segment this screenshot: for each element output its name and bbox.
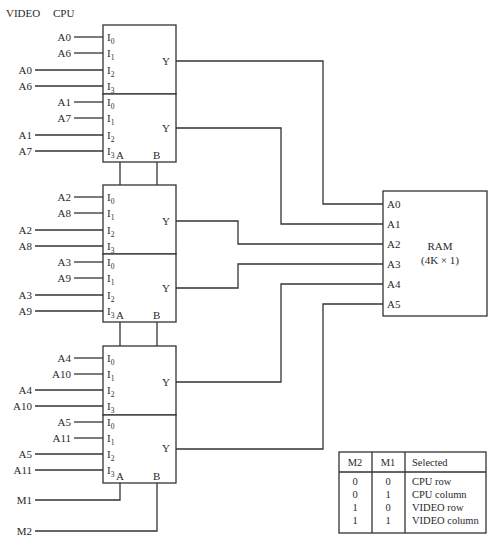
ram-pin-a1: A1 — [387, 218, 400, 230]
input-label: A11 — [52, 432, 71, 444]
input-label: A6 — [58, 47, 72, 59]
ram-pin-a0: A0 — [387, 198, 401, 210]
m2-wire — [35, 483, 157, 531]
cell: VIDEO row — [412, 502, 464, 513]
ram-pin-a2: A2 — [387, 238, 400, 250]
input-label: A9 — [58, 272, 72, 284]
cell: CPU column — [412, 489, 467, 500]
mux-group-1: A0 A6 A0 A6 A1 A7 A1 A7 I0 I1 I2 I3 I0 I… — [19, 25, 176, 162]
ram-size: (4K × 1) — [421, 254, 459, 267]
input-label: A7 — [19, 145, 33, 157]
m1-label: M1 — [17, 494, 32, 506]
pin-y: Y — [162, 122, 170, 134]
input-label: A10 — [52, 368, 71, 380]
th-selected: Selected — [412, 457, 448, 468]
pin-a: A — [116, 309, 124, 321]
input-label: A6 — [19, 80, 33, 92]
cell: 1 — [352, 502, 357, 513]
pin-y: Y — [162, 282, 170, 294]
input-label: A2 — [19, 224, 32, 236]
input-label: A0 — [58, 31, 72, 43]
input-label: A1 — [19, 129, 32, 141]
input-label: A10 — [13, 400, 32, 412]
input-label: A9 — [19, 305, 33, 317]
input-label: A8 — [19, 240, 33, 252]
pin-b: B — [153, 149, 160, 161]
pin-y: Y — [162, 55, 170, 67]
pin-y: Y — [162, 376, 170, 388]
pin-b: B — [153, 470, 160, 482]
input-label: A0 — [19, 64, 33, 76]
cell: 1 — [352, 515, 357, 526]
wire-y2-a1 — [176, 128, 383, 224]
input-label: A5 — [19, 448, 33, 460]
th-m2: M2 — [348, 457, 363, 468]
video-column-label: VIDEO — [6, 7, 40, 19]
cpu-column-label: CPU — [53, 7, 74, 19]
input-label: A7 — [58, 112, 72, 124]
wire-y5-a4 — [176, 284, 383, 382]
cell: 0 — [352, 476, 357, 487]
cell: VIDEO column — [412, 515, 480, 526]
mux-group-2: A2 A8 A2 A8 A3 A9 A3 A9 I0 I1 I2 I3 I0 I… — [19, 185, 176, 322]
wire-y6-a5 — [176, 304, 383, 449]
mux-group-3: A4 A10 A4 A10 A5 A11 A5 A11 I0 I1 I2 I3 … — [13, 346, 176, 483]
input-label: A2 — [58, 191, 71, 203]
input-label: A3 — [19, 289, 33, 301]
ram-block: A0 A1 A2 A3 A4 A5 RAM (4K × 1) — [383, 191, 487, 316]
truth-table: M2 M1 Selected 0 0 CPU row 0 1 CPU colum… — [339, 452, 486, 533]
pin-b: B — [153, 309, 160, 321]
cell: CPU row — [412, 476, 452, 487]
cell: 0 — [385, 476, 390, 487]
ram-pin-a3: A3 — [387, 258, 401, 270]
input-label: A4 — [19, 384, 33, 396]
input-label: A5 — [58, 416, 72, 428]
input-label: A11 — [13, 464, 32, 476]
cell: 0 — [385, 502, 390, 513]
pin-a: A — [116, 470, 124, 482]
m2-label: M2 — [17, 525, 32, 537]
pin-a: A — [116, 149, 124, 161]
ram-pin-a5: A5 — [387, 298, 401, 310]
th-m1: M1 — [381, 457, 396, 468]
mux-diagram: VIDEO CPU A0 A6 A0 A6 A1 A7 A1 A7 I0 I1 … — [0, 0, 499, 542]
cell: 1 — [385, 515, 390, 526]
pin-y: Y — [162, 442, 170, 454]
pin-y: Y — [162, 215, 170, 227]
cell: 0 — [352, 489, 357, 500]
input-label: A8 — [58, 207, 72, 219]
ram-pin-a4: A4 — [387, 278, 401, 290]
input-label: A4 — [58, 352, 72, 364]
ram-title: RAM — [427, 240, 452, 252]
cell: 1 — [385, 489, 390, 500]
wire-y1-a0 — [176, 61, 383, 204]
input-label: A3 — [58, 256, 72, 268]
input-label: A1 — [58, 96, 71, 108]
m1-wire — [35, 483, 120, 500]
